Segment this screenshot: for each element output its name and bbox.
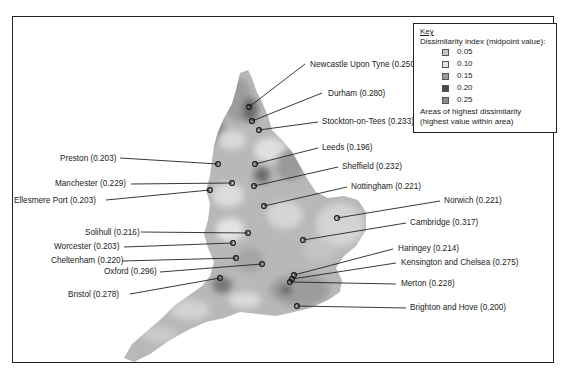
leader-line <box>249 64 305 107</box>
city-label: Cambridge (0.317) <box>410 218 478 228</box>
city-label: Oxford (0.296) <box>104 267 157 277</box>
swatch-icon <box>442 73 449 80</box>
city-label: Leeds (0.196) <box>322 143 373 153</box>
legend: Key Dissimilarity index (midpoint value)… <box>413 23 557 133</box>
leader-line <box>120 158 218 164</box>
leader-line <box>297 306 406 308</box>
city-label: Norwich (0.221) <box>444 196 502 206</box>
swatch-icon <box>442 61 449 68</box>
swatch-icon <box>442 49 449 56</box>
city-label: Brighton and Hove (0.200) <box>410 303 506 313</box>
legend-item: 0.05 <box>442 47 473 57</box>
city-label: Sheffield (0.232) <box>342 162 402 172</box>
city-label: Solihull (0.216) <box>85 228 140 238</box>
city-label: Nottingham (0.221) <box>351 182 421 192</box>
city-label: Bristol (0.278) <box>68 290 119 300</box>
legend-item: 0.15 <box>442 71 473 81</box>
city-label: Ellesmere Port (0.203) <box>14 196 96 206</box>
city-label: Durham (0.280) <box>328 89 385 99</box>
city-label: Newcastle Upon Tyne (0.250) <box>310 60 418 70</box>
city-label: Preston (0.203) <box>60 154 116 164</box>
city-label: Stockton-on-Tees (0.233) <box>322 117 414 127</box>
legend-areas-note: Areas of highest dissimilarity (highest … <box>420 107 521 127</box>
leader-line <box>106 190 210 200</box>
legend-item: 0.10 <box>442 59 473 69</box>
legend-title: Key <box>420 27 550 37</box>
legend-item: 0.25 <box>442 95 473 105</box>
swatch-icon <box>442 85 449 92</box>
legend-subtitle: Dissimilarity index (midpoint value): <box>420 37 550 47</box>
city-label: Worcester (0.203) <box>54 242 119 252</box>
city-label: Manchester (0.229) <box>55 179 126 189</box>
swatch-icon <box>442 97 449 104</box>
city-label: Haringey (0.214) <box>398 244 459 254</box>
city-label: Cheltenham (0.220) <box>51 256 123 266</box>
city-label: Kensington and Chelsea (0.275) <box>401 258 518 268</box>
legend-item: 0.20 <box>442 83 473 93</box>
city-label: Merton (0.228) <box>401 279 455 289</box>
